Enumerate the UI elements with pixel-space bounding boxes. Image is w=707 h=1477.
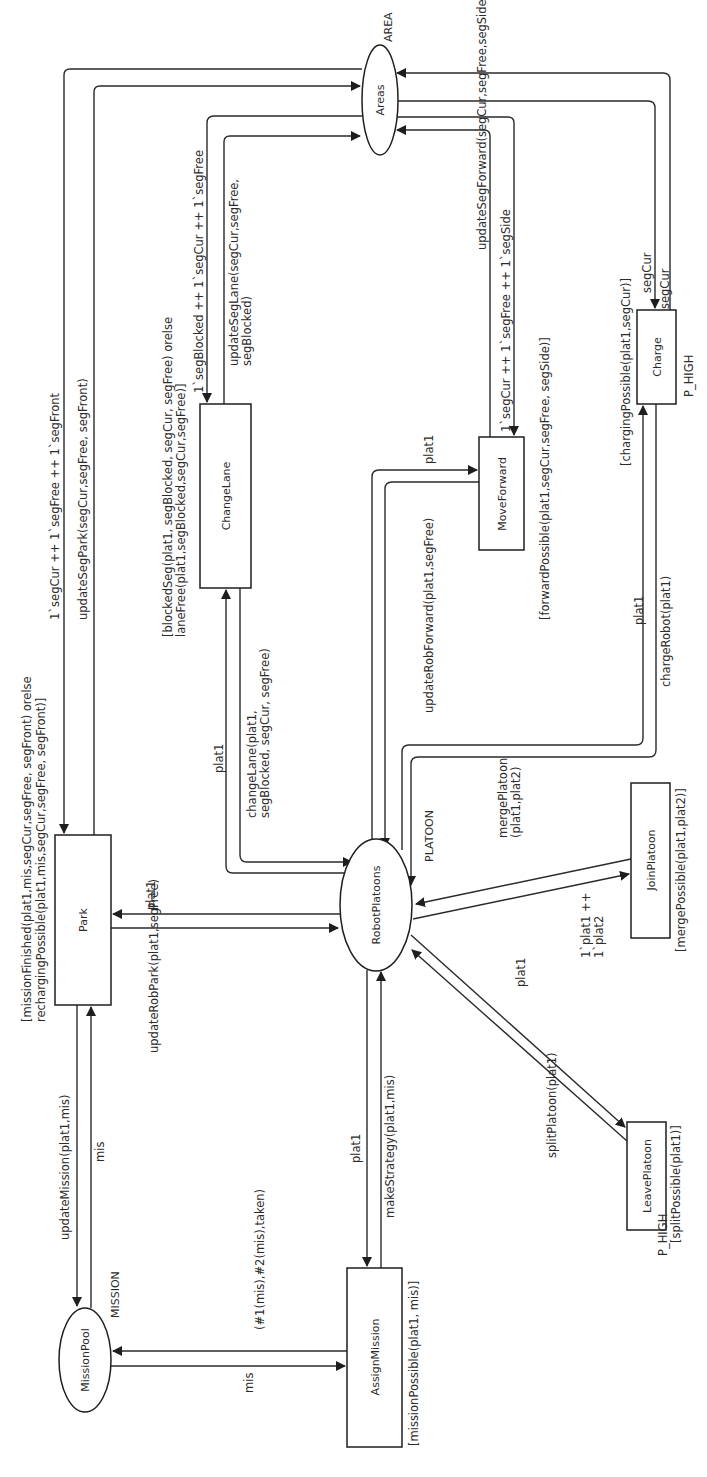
inscription-park-to-rp: updateRobPark(plat1,segFree) bbox=[147, 879, 161, 1053]
inscription-rp-to-leaveplatoon: plat1 bbox=[514, 958, 528, 987]
arc-areas-to-charge bbox=[397, 101, 655, 308]
inscription-rp-to-joinplatoon-line1: 1`plat1 ++ bbox=[579, 893, 593, 958]
transition-label: ChangeLane bbox=[220, 461, 233, 530]
inscription-charge-to-areas: segCur bbox=[658, 268, 672, 309]
priority-charge: P_HIGH bbox=[682, 355, 696, 397]
guard-changelane-line2: laneFree(plat1,segBlocked,segCur,segFree… bbox=[174, 384, 188, 637]
inscription-rp-to-assignmission: plat1 bbox=[349, 1134, 363, 1163]
guard-park-line1: [missionFinished(plat1,mis,segCur,segFre… bbox=[20, 676, 34, 1022]
place-label: Areas bbox=[374, 84, 387, 115]
inscription-joinplatoon-to-rp-line1: mergePlatoon bbox=[496, 758, 510, 838]
place-areas[interactable]: Areas bbox=[362, 45, 398, 155]
inscription-moveforward-to-rp: updateRobForward(plat1,segFree) bbox=[422, 518, 436, 713]
inscription-joinplatoon-to-rp-line2: (plat1,plat2) bbox=[509, 767, 523, 838]
transition-assign-mission[interactable]: AssignMission bbox=[347, 1268, 402, 1447]
inscription-areas-to-moveforward: 1`segCur ++ 1`segFree ++ 1`segSide bbox=[499, 209, 513, 432]
inscription-changelane-to-rp-line1: changeLane(plat1, bbox=[245, 710, 259, 818]
transition-park[interactable]: Park bbox=[55, 835, 111, 1005]
transition-move-forward[interactable]: MoveForward bbox=[479, 437, 524, 550]
inscription-park-to-areas: updateSegPark(segCur,segFree, segFront) bbox=[76, 378, 90, 620]
inscription-rp-to-changelane: plat1 bbox=[212, 744, 226, 773]
arc-charge-to-areas bbox=[397, 73, 670, 310]
place-label: MissionPool bbox=[79, 1328, 92, 1392]
inscription-assignmission-to-missionpool: (#1(mis),#2(mis),taken) bbox=[253, 1189, 267, 1330]
guard-moveforward: [forwardPossible(plat1,segCur,segFree, s… bbox=[538, 337, 552, 620]
inscription-missionpool-to-assignmission: mis bbox=[242, 1373, 256, 1393]
inscription-changelane-to-rp-line2: segBlocked, segCur, segFree) bbox=[258, 648, 272, 818]
guard-assignmission: [missionPossible(plat1, mis)] bbox=[407, 1281, 421, 1446]
inscription-leaveplatoon-to-rp: splitPlatoon(plat1) bbox=[545, 1052, 559, 1158]
inscription-areas-to-changelane: 1`segBlocked ++ 1`segCur ++ 1`segFree bbox=[192, 150, 206, 393]
guard-changelane-line1: [blockedSeg(plat1, segBlocked, segCur, s… bbox=[161, 317, 175, 637]
place-robot-platoons[interactable]: RobotPlatoons bbox=[340, 839, 412, 971]
guard-leaveplatoon: [splitPossible(plat1)] bbox=[669, 1125, 683, 1243]
transition-label: JoinPlatoon bbox=[645, 829, 658, 891]
place-label: RobotPlatoons bbox=[370, 865, 383, 944]
inscription-assignmission-to-rp: makeStrategy(plat1,mis) bbox=[383, 1075, 397, 1218]
transition-join-platoon[interactable]: JoinPlatoon bbox=[631, 783, 670, 938]
inscription-changelane-to-areas-line2: segBlocked) bbox=[240, 296, 254, 366]
priority-leaveplatoon: P_HIGH bbox=[656, 1214, 670, 1256]
inscription-charge-to-rp: chargeRobot(plat1) bbox=[659, 576, 673, 687]
inscription-park-to-missionpool: updateMission(plat1,mis) bbox=[58, 1094, 72, 1240]
arc-areas-to-moveforward bbox=[397, 117, 514, 435]
colorset-mission-label: MISSION bbox=[109, 1271, 122, 1318]
transition-label: AssignMission bbox=[369, 1319, 382, 1396]
inscription-missionpool-to-park: mis bbox=[93, 1142, 107, 1162]
inscription-rp-to-charge: plat1 bbox=[632, 596, 646, 625]
arcs bbox=[64, 69, 670, 1366]
petri-net-diagram: Areas AREA RobotPlatoons PLATOON Mission… bbox=[0, 0, 707, 1477]
transition-label: MoveForward bbox=[496, 457, 509, 531]
guard-charge: [chargingPossible(plat1,segCur)] bbox=[619, 278, 633, 466]
guard-joinplatoon: [mergePossible(plat1,plat2)] bbox=[674, 788, 688, 952]
inscription-rp-to-joinplatoon-line2: 1`plat2 bbox=[592, 916, 606, 958]
arc-rp-to-joinplatoon bbox=[413, 874, 629, 919]
guard-park-line2: rechargingPossible(plat1,mis,segCur,segF… bbox=[34, 698, 48, 1022]
transition-change-lane[interactable]: ChangeLane bbox=[200, 404, 251, 588]
inscription-changelane-to-areas-line1: updateSegLane(segCur,segFree, bbox=[227, 179, 241, 366]
inscription-moveforward-to-areas: updateSegForward(segCur,segFree,segSide) bbox=[475, 0, 489, 250]
colorset-platoon-label: PLATOON bbox=[423, 810, 436, 862]
inscription-areas-to-park: 1`segCur ++ 1`segFree ++ 1`segFront bbox=[48, 393, 62, 620]
place-mission-pool[interactable]: MissionPool bbox=[59, 1308, 111, 1412]
colorset-area-label: AREA bbox=[382, 12, 395, 42]
arc-inscriptions: 1`segCur ++ 1`segFree ++ 1`segFront upda… bbox=[48, 0, 673, 1393]
inscription-rp-to-moveforward: plat1 bbox=[422, 435, 436, 464]
arc-joinplatoon-to-rp bbox=[416, 859, 631, 904]
arc-charge-to-rp bbox=[411, 404, 656, 885]
inscription-areas-to-charge: segCur bbox=[640, 252, 654, 293]
transition-label: LeavePlatoon bbox=[641, 1139, 654, 1213]
transition-label: Park bbox=[77, 907, 90, 931]
transition-charge[interactable]: Charge bbox=[637, 310, 676, 404]
transition-label: Charge bbox=[651, 337, 664, 377]
